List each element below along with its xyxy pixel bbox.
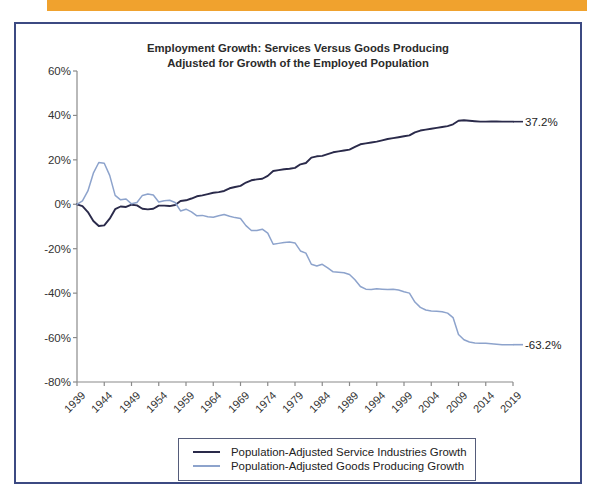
x-tick-label: 1989	[329, 389, 360, 420]
x-tick-label: 1944	[84, 389, 115, 420]
top-banner: Jobs Have Increased	[47, 0, 587, 11]
x-tick-label: 1954	[138, 389, 169, 420]
x-tick-label: 1984	[302, 389, 333, 420]
y-tick-label: 20%	[48, 154, 71, 166]
y-tick-label: 0%	[54, 198, 71, 210]
legend-item-goods[interactable]: Population-Adjusted Goods Producing Grow…	[179, 459, 475, 473]
x-tick-label: 1999	[383, 389, 414, 420]
series-line-goods	[77, 163, 513, 345]
goods-end-value: -63.2%	[525, 339, 561, 351]
data-series-group	[77, 120, 523, 344]
series-line-services	[77, 120, 513, 226]
legend-swatch-services	[193, 451, 220, 453]
banner-text: Jobs Have Increased	[47, 0, 587, 2]
chart-title-line-2: Adjusted for Growth of the Employed Popu…	[16, 56, 580, 71]
legend-swatch-goods	[193, 465, 220, 467]
x-tick-label: 1959	[165, 389, 196, 420]
x-tick-label: 1974	[247, 389, 278, 420]
y-tick-label: 40%	[48, 109, 71, 121]
chart-title-line-1: Employment Growth: Services Versus Goods…	[16, 41, 580, 56]
plot-area: 60%40%20%0%-20%-40%-60%-80% 193919441949…	[77, 71, 513, 382]
axes-group	[77, 71, 513, 382]
chart-figure: Employment Growth: Services Versus Goods…	[14, 22, 582, 484]
legend-item-services[interactable]: Population-Adjusted Service Industries G…	[179, 445, 475, 459]
chart-legend: Population-Adjusted Service Industries G…	[178, 438, 476, 481]
y-tick-label: 60%	[48, 65, 71, 77]
x-tick-label: 1949	[111, 389, 142, 420]
y-tick-label: -60%	[44, 332, 71, 344]
x-tick-label: 1939	[56, 389, 87, 420]
x-tick-label: 2019	[492, 389, 523, 420]
x-tick-label: 2014	[465, 389, 496, 420]
x-tick-label: 1994	[356, 389, 387, 420]
legend-label-services: Population-Adjusted Service Industries G…	[231, 446, 467, 458]
chart-svg	[77, 71, 513, 382]
services-end-value: 37.2%	[525, 116, 558, 128]
chart-title: Employment Growth: Services Versus Goods…	[16, 41, 580, 71]
y-tick-label: -40%	[44, 287, 71, 299]
x-tick-label: 1969	[220, 389, 251, 420]
x-tick-label: 1979	[274, 389, 305, 420]
y-tick-label: -20%	[44, 243, 71, 255]
legend-label-goods: Population-Adjusted Goods Producing Grow…	[231, 460, 464, 472]
x-tick-label: 1964	[193, 389, 224, 420]
x-tick-label: 2009	[438, 389, 469, 420]
y-tick-label: -80%	[44, 376, 71, 388]
x-tick-label: 2004	[411, 389, 442, 420]
